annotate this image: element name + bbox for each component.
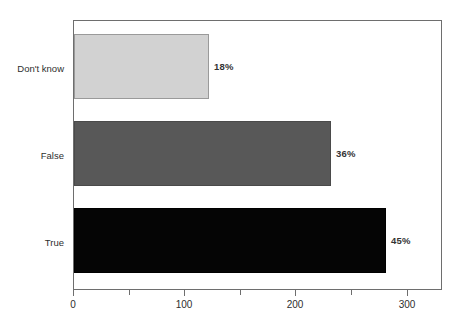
plot-area (73, 20, 442, 290)
bar-chart-figure: Don't know False True 18% 36% 45% 0 100 … (0, 0, 458, 331)
x-axis: 0 100 200 300 (73, 290, 442, 320)
x-tick-200 (295, 290, 296, 296)
x-tick-0 (73, 290, 74, 296)
value-label-true: 45% (391, 236, 411, 246)
category-label-true: True (45, 238, 64, 248)
x-tick-100 (184, 290, 185, 296)
figure-caption (8, 322, 452, 331)
bar-true (74, 208, 386, 273)
bar-false (74, 121, 331, 186)
x-tick-label-100: 100 (176, 300, 193, 310)
x-tick-label-200: 200 (287, 300, 304, 310)
value-label-dont-know: 18% (214, 62, 234, 72)
x-tick-150 (240, 290, 241, 295)
category-axis: Don't know False True (0, 20, 68, 290)
x-tick-50 (129, 290, 130, 295)
x-tick-label-0: 0 (70, 300, 76, 310)
category-label-false: False (41, 151, 64, 161)
x-tick-label-300: 300 (399, 300, 416, 310)
x-tick-250 (351, 290, 352, 295)
value-label-false: 36% (336, 149, 356, 159)
category-label-dont-know: Don't know (17, 64, 64, 74)
x-tick-300 (407, 290, 408, 296)
bar-dont-know (74, 34, 209, 99)
